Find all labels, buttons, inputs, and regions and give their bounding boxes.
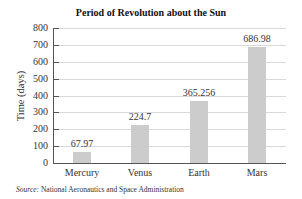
y-tick-label: 600	[18, 57, 48, 67]
source-text: National Aeronautics and Space Administr…	[39, 185, 184, 194]
bar-earth	[190, 101, 208, 163]
y-tick-label: 100	[18, 141, 48, 151]
y-tick-label: 500	[18, 74, 48, 84]
gridline	[53, 28, 286, 29]
source-note: Source: National Aeronautics and Space A…	[16, 185, 184, 194]
bar-value-label: 365.256	[169, 88, 229, 98]
bar-venus	[131, 125, 149, 163]
bar-value-label: 686.98	[227, 34, 287, 44]
x-category-label: Venus	[110, 168, 170, 178]
x-category-label: Earth	[169, 168, 229, 178]
y-tick-label: 300	[18, 107, 48, 117]
bar-value-label: 224.7	[110, 112, 170, 122]
plot-area: 010020030040050060070080067.97Mercury224…	[0, 0, 302, 199]
bar-mars	[248, 47, 266, 163]
y-tick-label: 800	[18, 23, 48, 33]
source-prefix: Source:	[16, 185, 39, 194]
bar-value-label: 67.97	[52, 139, 112, 149]
x-category-label: Mercury	[52, 168, 112, 178]
bar-mercury	[73, 152, 91, 163]
gridline	[53, 45, 286, 46]
x-axis	[53, 163, 286, 164]
y-tick-label: 0	[18, 158, 48, 168]
y-tick-label: 700	[18, 40, 48, 50]
x-category-label: Mars	[227, 168, 287, 178]
y-tick-label: 200	[18, 124, 48, 134]
y-tick-label: 400	[18, 91, 48, 101]
